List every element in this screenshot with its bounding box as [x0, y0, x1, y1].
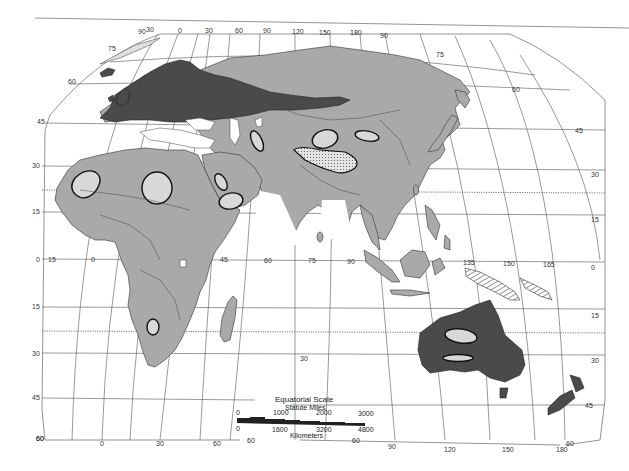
svg-text:15: 15 — [48, 256, 56, 263]
svg-text:165: 165 — [543, 261, 555, 268]
scale-title: Equatorial Scale — [275, 395, 334, 404]
svg-text:90: 90 — [138, 28, 146, 35]
scale-km-label: Kilometers — [290, 432, 324, 439]
svg-text:180: 180 — [556, 446, 568, 453]
svg-text:75: 75 — [308, 257, 316, 264]
svg-text:150: 150 — [503, 260, 515, 267]
svg-text:150: 150 — [502, 446, 514, 453]
svg-text:60: 60 — [68, 78, 76, 85]
svg-text:15: 15 — [32, 303, 40, 310]
longitude-labels-top: 90 30 0 30 60 90 120 150 180 90 — [138, 26, 388, 39]
svg-text:45: 45 — [585, 402, 593, 409]
svg-text:0: 0 — [178, 27, 182, 34]
svg-text:150: 150 — [319, 29, 331, 36]
svg-text:135: 135 — [463, 259, 475, 266]
map-canvas: 75 60 45 30 15 0 15 30 45 60 75 60 45 30… — [0, 0, 629, 471]
melanesia-hatched — [520, 278, 552, 300]
svg-text:90: 90 — [347, 258, 355, 265]
svg-text:60: 60 — [235, 27, 243, 34]
svg-text:75: 75 — [108, 45, 116, 52]
svg-text:90: 90 — [263, 27, 271, 34]
svg-text:0: 0 — [91, 256, 95, 263]
svg-text:60: 60 — [352, 437, 360, 444]
latitude-labels-left: 75 60 45 30 15 0 15 30 45 60 — [32, 45, 116, 442]
svg-text:30: 30 — [205, 27, 213, 34]
svg-text:45: 45 — [32, 394, 40, 401]
svg-text:90: 90 — [388, 443, 396, 450]
svg-text:75: 75 — [436, 51, 444, 58]
equatorial-scale: Equatorial Scale Statute Miles 0 1000 20… — [236, 395, 374, 439]
svg-text:180: 180 — [350, 29, 362, 36]
top-rule — [35, 18, 629, 28]
svg-text:120: 120 — [444, 446, 456, 453]
svg-text:45: 45 — [575, 127, 583, 134]
svg-text:0: 0 — [236, 425, 240, 432]
longitude-labels-bottom-left: 60 0 30 60 60 — [36, 435, 255, 447]
svg-text:60: 60 — [264, 257, 272, 264]
svg-text:30: 30 — [591, 357, 599, 364]
svg-text:1600: 1600 — [272, 426, 288, 433]
svg-text:90: 90 — [380, 32, 388, 39]
svg-text:15: 15 — [591, 312, 599, 319]
svg-text:60: 60 — [36, 435, 44, 442]
svg-text:60: 60 — [247, 437, 255, 444]
svg-text:15: 15 — [32, 208, 40, 215]
svg-text:30: 30 — [156, 440, 164, 447]
longitude-labels-bottom-right: 60 90 120 150 60 180 — [352, 437, 574, 453]
world-map: 75 60 45 30 15 0 15 30 45 60 75 60 45 30… — [0, 0, 629, 471]
svg-text:0: 0 — [591, 264, 595, 271]
svg-text:0: 0 — [236, 409, 240, 416]
svg-text:15: 15 — [591, 216, 599, 223]
svg-text:1000: 1000 — [273, 409, 289, 416]
svg-text:3000: 3000 — [358, 410, 374, 417]
svg-text:60: 60 — [512, 86, 520, 93]
svg-text:0: 0 — [36, 256, 40, 263]
svg-text:0: 0 — [100, 440, 104, 447]
svg-text:45: 45 — [220, 256, 228, 263]
svg-text:2000: 2000 — [316, 409, 332, 416]
svg-text:30: 30 — [32, 350, 40, 357]
interior-latitude-label: 30 — [300, 355, 308, 362]
scale-bar — [237, 417, 365, 426]
svg-text:45: 45 — [37, 118, 45, 125]
new-guinea-hatched — [465, 268, 520, 300]
svg-text:4800: 4800 — [358, 426, 374, 433]
svg-text:30: 30 — [146, 26, 154, 33]
svg-text:120: 120 — [292, 28, 304, 35]
svg-text:30: 30 — [591, 171, 599, 178]
svg-text:60: 60 — [213, 440, 221, 447]
svg-text:30: 30 — [32, 162, 40, 169]
